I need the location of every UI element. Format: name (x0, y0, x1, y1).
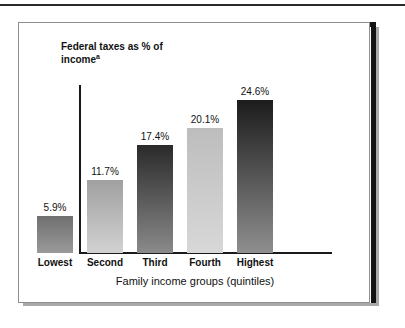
x-axis-title: Family income groups (quintiles) (19, 275, 371, 287)
frame-shadow-right (376, 27, 379, 306)
bar-value-label: 20.1% (178, 114, 232, 125)
bar[interactable] (237, 100, 273, 253)
y-axis-title-text: Federal taxes as % of income (61, 41, 163, 65)
y-axis-title-footnote-marker: a (96, 53, 100, 60)
bar-value-label: 11.7% (78, 166, 132, 177)
bar[interactable] (187, 128, 223, 253)
bar-value-label: 5.9% (28, 202, 82, 213)
figure-frame: Federal taxes as % of incomea 5.9%Lowest… (18, 22, 370, 303)
frame-right-edge (371, 22, 376, 303)
bar-group: 11.7% (87, 180, 123, 253)
bar-group: 17.4% (137, 145, 173, 253)
bar-group: 20.1% (187, 128, 223, 253)
bar-value-label: 17.4% (128, 131, 182, 142)
bar[interactable] (137, 145, 173, 253)
bar-group: 5.9% (37, 216, 73, 253)
bar-value-label: 24.6% (228, 86, 282, 97)
x-axis-category-label: Third (128, 257, 182, 268)
x-axis-category-label: Lowest (28, 257, 82, 268)
x-axis-category-label: Highest (228, 257, 282, 268)
bar-chart-plot-area: Federal taxes as % of incomea 5.9%Lowest… (19, 23, 371, 304)
x-axis-category-label: Fourth (178, 257, 232, 268)
y-axis-title: Federal taxes as % of incomea (61, 40, 181, 66)
bar[interactable] (37, 216, 73, 253)
bar-group: 24.6% (237, 100, 273, 253)
x-axis-category-label: Second (78, 257, 132, 268)
top-divider-rule (0, 4, 405, 6)
bar[interactable] (87, 180, 123, 253)
